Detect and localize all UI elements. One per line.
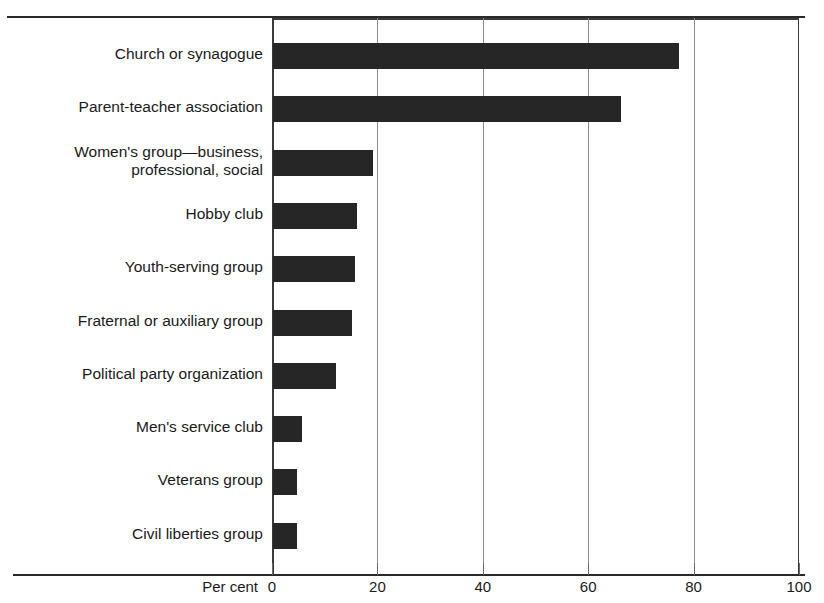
x-axis-line	[13, 574, 805, 576]
bar	[273, 523, 297, 549]
bar	[273, 256, 355, 282]
x-axis-title: Per cent	[202, 578, 258, 595]
bar	[273, 363, 336, 389]
x-tick-80	[694, 563, 695, 575]
category-label: Veterans group	[158, 471, 263, 489]
bar-chart-figure: 020406080100 Per cent Church or synagogu…	[0, 0, 824, 603]
category-label: Political party organization	[82, 365, 263, 383]
category-label: Hobby club	[185, 205, 263, 223]
bar	[273, 203, 357, 229]
x-tick-label-60: 60	[580, 578, 597, 595]
bar	[273, 43, 679, 69]
bar	[273, 469, 297, 495]
x-tick-label-20: 20	[369, 578, 386, 595]
x-tick-label-0: 0	[268, 578, 276, 595]
x-tick-20	[377, 563, 378, 575]
category-label: Men's service club	[136, 418, 263, 436]
plot-area	[272, 18, 799, 575]
gridline-80	[694, 18, 695, 575]
x-tick-60	[588, 563, 589, 575]
category-label: Civil liberties group	[132, 525, 263, 543]
bar	[273, 150, 373, 176]
category-label: Fraternal or auxiliary group	[78, 312, 263, 330]
category-label: Church or synagogue	[115, 45, 263, 63]
bar	[273, 416, 302, 442]
category-label: Women's group—business, professional, so…	[74, 143, 263, 179]
category-label: Parent-teacher association	[79, 98, 263, 116]
x-tick-label-40: 40	[474, 578, 491, 595]
bar	[273, 310, 352, 336]
plot-border-right	[798, 18, 800, 575]
x-tick-0	[272, 563, 273, 575]
x-tick-label-100: 100	[786, 578, 811, 595]
bar	[273, 96, 621, 122]
x-tick-label-80: 80	[685, 578, 702, 595]
plot-border-top	[272, 18, 799, 20]
x-tick-100	[799, 563, 800, 575]
category-label: Youth-serving group	[125, 258, 263, 276]
x-tick-40	[483, 563, 484, 575]
